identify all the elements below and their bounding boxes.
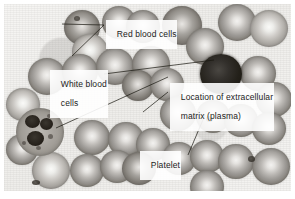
label-platelet: Platelet (140, 151, 181, 180)
blood-smear-figure: Red blood cells White blood cells Locati… (0, 0, 295, 199)
debris-speck (32, 180, 40, 185)
label-white-blood-cells-line1: White blood (61, 79, 107, 89)
cytoplasm-granule (48, 134, 53, 139)
debris-speck (248, 156, 255, 162)
label-extracellular-matrix: Location of extracellular matrix (plasma… (170, 83, 274, 131)
label-red-blood-cells: Red blood cells (106, 20, 177, 49)
cytoplasm-granule (36, 146, 41, 150)
nucleus-lobe (27, 131, 44, 146)
label-white-blood-cells: White blood cells (50, 70, 108, 118)
label-red-blood-cells-line1: Red blood cells (117, 29, 177, 39)
nucleus-lobe (40, 118, 53, 130)
label-extracellular-matrix-line1: Location of extracellular (181, 92, 273, 102)
label-platelet-line1: Platelet (151, 160, 180, 170)
red-blood-cell (252, 148, 290, 185)
red-blood-cell (250, 10, 288, 47)
nucleus-lobe (25, 115, 40, 128)
debris-speck (74, 16, 80, 21)
label-extracellular-matrix-line2: matrix (plasma) (181, 111, 241, 121)
red-blood-cell (70, 154, 104, 187)
red-blood-cell (74, 120, 110, 155)
label-white-blood-cells-line2: cells (61, 98, 79, 108)
cytoplasm-granule (22, 141, 26, 145)
